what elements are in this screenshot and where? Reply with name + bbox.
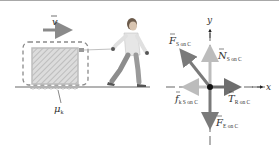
physics-diagram: v μk: [0, 0, 279, 149]
friction-force-label: fk S on C: [174, 93, 198, 105]
friction-label: μk: [54, 103, 64, 115]
rope-hook: [79, 48, 84, 52]
velocity-label: v: [52, 16, 58, 27]
x-axis-label: x: [266, 82, 271, 92]
y-axis-label: y: [206, 15, 213, 25]
particle-dot: [207, 84, 213, 90]
friction-surface: [30, 88, 78, 89]
free-body-diagram: x y NS on C FS on C TR on C fk S on C FE…: [166, 15, 271, 145]
surface-force-vector: [183, 53, 210, 87]
tension-force-label: TR on C: [228, 93, 251, 105]
top-border: [0, 0, 279, 1]
surface-force-label: FS on C: [168, 35, 191, 47]
gravity-force-label: FE on C: [215, 117, 239, 129]
friction-pointer: [58, 90, 61, 103]
scene: v μk: [15, 16, 150, 115]
normal-force-label: NS on C: [217, 50, 242, 62]
man: [107, 18, 149, 87]
crate: [32, 48, 78, 84]
figure-frame: v μk: [0, 0, 279, 149]
velocity-vector: v: [43, 16, 64, 30]
